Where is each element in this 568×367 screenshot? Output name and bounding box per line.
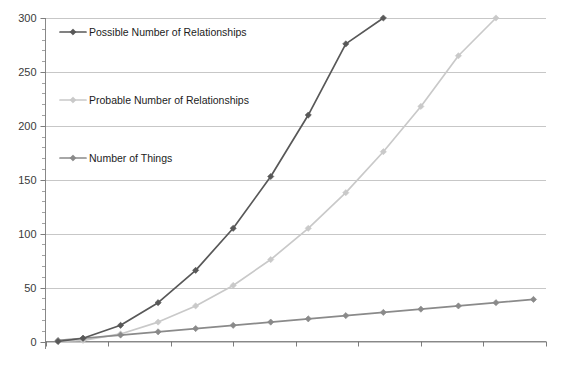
legend-entry-1[interactable]: Probable Number of Relationships bbox=[60, 94, 249, 106]
y-axis-label-150: 150 bbox=[18, 174, 36, 186]
legend-label: Probable Number of Relationships bbox=[89, 94, 249, 106]
chart-canvas: 050100150200250300 Possible Number of Re… bbox=[0, 0, 568, 367]
y-axis-label-300: 300 bbox=[18, 12, 36, 24]
line-chart: 050100150200250300 Possible Number of Re… bbox=[0, 0, 568, 367]
y-axis-label-250: 250 bbox=[18, 66, 36, 78]
y-axis-label-0: 0 bbox=[30, 336, 36, 348]
legend-label: Possible Number of Relationships bbox=[89, 26, 247, 38]
y-axis-label-50: 50 bbox=[24, 282, 36, 294]
y-axis-label-200: 200 bbox=[18, 120, 36, 132]
y-axis-label-100: 100 bbox=[18, 228, 36, 240]
chart-background bbox=[0, 0, 568, 367]
legend-label: Number of Things bbox=[89, 152, 172, 164]
